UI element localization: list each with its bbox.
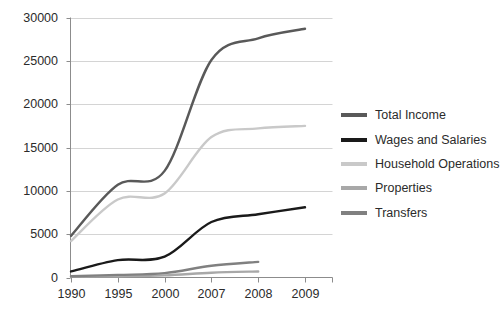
- x-axis-tick-label: 2008: [236, 287, 282, 301]
- x-axis-tick-label: 2009: [283, 287, 329, 301]
- legend-swatch-icon: [341, 138, 367, 142]
- series-line: [71, 207, 305, 271]
- x-axis-tick-label: 1990: [49, 287, 95, 301]
- y-axis-tick-label: 20000: [0, 97, 58, 111]
- y-axis-tick-label: 5000: [0, 227, 58, 241]
- x-axis-ticks-group: [72, 278, 333, 283]
- chart-legend: Total IncomeWages and SalariesHousehold …: [341, 103, 501, 225]
- series-paths-group: [71, 29, 305, 277]
- y-axis-tick-label: 10000: [0, 184, 58, 198]
- legend-item-label: Household Operations: [375, 157, 499, 171]
- legend-item[interactable]: Total Income: [341, 103, 501, 127]
- series-line: [71, 126, 305, 241]
- legend-item-label: Total Income: [375, 108, 446, 122]
- series-line: [71, 29, 305, 236]
- legend-item[interactable]: Household Operations: [341, 152, 501, 176]
- y-axis-ticks-group: [67, 19, 71, 279]
- legend-item-label: Wages and Salaries: [375, 133, 486, 147]
- legend-item-label: Transfers: [375, 206, 427, 220]
- y-axis-tick-label: 30000: [0, 11, 58, 25]
- legend-swatch-icon: [341, 113, 367, 117]
- x-axis-tick-label: 2007: [189, 287, 235, 301]
- y-axis-tick-label: 0: [0, 271, 58, 285]
- legend-swatch-icon: [341, 186, 367, 190]
- legend-item[interactable]: Wages and Salaries: [341, 127, 501, 151]
- legend-swatch-icon: [341, 211, 367, 215]
- legend-item[interactable]: Properties: [341, 176, 501, 200]
- x-axis-tick-label: 1995: [96, 287, 142, 301]
- x-axis-tick-label: 2000: [143, 287, 189, 301]
- legend-item-label: Properties: [375, 181, 432, 195]
- chart-container: 050001000015000200002500030000 199019952…: [0, 0, 501, 318]
- y-axis-tick-label: 25000: [0, 54, 58, 68]
- y-axis-tick-label: 15000: [0, 141, 58, 155]
- legend-swatch-icon: [341, 162, 367, 166]
- legend-item[interactable]: Transfers: [341, 201, 501, 225]
